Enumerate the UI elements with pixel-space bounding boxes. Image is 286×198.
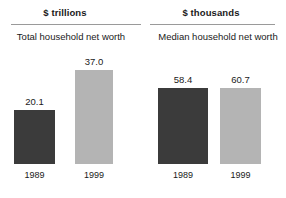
value-label-right-1989: 58.4 (158, 74, 208, 85)
year-label-right-1989: 1989 (158, 170, 208, 180)
plot-area-left: 20.1 1989 37.0 1999 (0, 0, 146, 198)
two-panel-bar-chart-figure: $ trillions Total household net worth 20… (0, 0, 286, 198)
bar-left-1989 (14, 110, 55, 164)
panel-total-household-net-worth: $ trillions Total household net worth 20… (0, 0, 146, 198)
bar-left-1999 (75, 70, 113, 164)
year-label-left-1999: 1999 (75, 170, 113, 180)
value-label-left-1999: 37.0 (75, 56, 113, 67)
plot-area-right: 58.4 1989 60.7 1999 (146, 0, 286, 198)
bar-right-1989 (158, 88, 208, 164)
value-label-left-1989: 20.1 (14, 96, 55, 107)
bar-right-1999 (220, 88, 261, 164)
year-label-right-1999: 1999 (220, 170, 261, 180)
year-label-left-1989: 1989 (14, 170, 55, 180)
panel-median-household-net-worth: $ thousands Median household net worth 5… (146, 0, 286, 198)
value-label-right-1999: 60.7 (220, 74, 261, 85)
